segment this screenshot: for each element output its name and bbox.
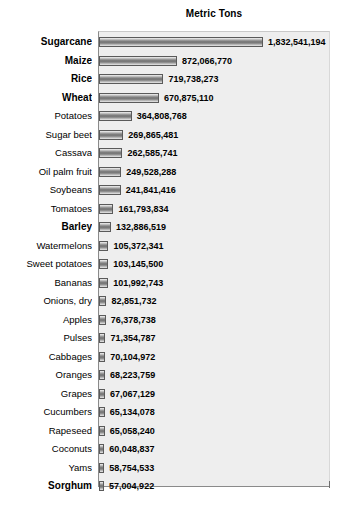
category-label: Pulses: [0, 329, 92, 348]
value-label: 249,528,288: [126, 163, 176, 182]
category-label: Barley: [0, 218, 92, 237]
category-label: Coconuts: [0, 440, 92, 459]
value-label: 65,058,240: [110, 422, 155, 441]
bar-row: Sugarcane1,832,541,194: [0, 33, 343, 52]
bar: [99, 111, 132, 121]
bar: [99, 389, 105, 399]
bar: [99, 241, 108, 251]
category-label: Sorghum: [0, 477, 92, 496]
value-label: 71,354,787: [110, 329, 155, 348]
bar-row: Apples76,378,738: [0, 311, 343, 330]
bar: [99, 204, 113, 214]
category-label: Bananas: [0, 274, 92, 293]
bar-row: Cabbages70,104,972: [0, 348, 343, 367]
category-label: Maize: [0, 52, 92, 71]
category-label: Apples: [0, 311, 92, 330]
bar-row: Barley132,886,519: [0, 218, 343, 237]
value-label: 269,865,481: [128, 126, 178, 145]
category-label: Rapeseed: [0, 422, 92, 441]
value-label: 76,378,738: [111, 311, 156, 330]
bar-row: Soybeans241,841,416: [0, 181, 343, 200]
bar: [99, 185, 121, 195]
category-label: Sugar beet: [0, 126, 92, 145]
bar: [99, 444, 104, 454]
bar: [99, 278, 108, 288]
value-label: 262,585,741: [127, 144, 177, 163]
value-label: 60,048,837: [109, 440, 154, 459]
category-label: Oranges: [0, 366, 92, 385]
bar: [99, 259, 108, 269]
bar-row: Sorghum57,004,922: [0, 477, 343, 496]
value-label: 57,004,922: [109, 477, 154, 496]
value-label: 103,145,500: [113, 255, 163, 274]
value-label: 670,875,110: [164, 89, 214, 108]
bar: [99, 315, 106, 325]
category-label: Onions, dry: [0, 292, 92, 311]
category-label: Cassava: [0, 144, 92, 163]
bar-row: Sweet potatoes103,145,500: [0, 255, 343, 274]
bar: [99, 130, 123, 140]
category-label: Sugarcane: [0, 33, 92, 52]
bar-row: Oil palm fruit249,528,288: [0, 163, 343, 182]
category-label: Soybeans: [0, 181, 92, 200]
bar-row: Watermelons105,372,341: [0, 237, 343, 256]
category-label: Tomatoes: [0, 200, 92, 219]
bar-row: Onions, dry82,851,732: [0, 292, 343, 311]
category-label: Rice: [0, 70, 92, 89]
value-label: 67,067,129: [110, 385, 155, 404]
bar-row: Potatoes364,808,768: [0, 107, 343, 126]
value-label: 82,851,732: [111, 292, 156, 311]
bar-row: Sugar beet269,865,481: [0, 126, 343, 145]
category-label: Potatoes: [0, 107, 92, 126]
value-label: 364,808,768: [137, 107, 187, 126]
bar-chart: Metric Tons Sugarcane1,832,541,194Maize8…: [0, 0, 343, 505]
bar-row: Rapeseed65,058,240: [0, 422, 343, 441]
bar: [99, 407, 105, 417]
bar: [99, 93, 159, 103]
value-label: 68,223,759: [110, 366, 155, 385]
bar: [99, 333, 105, 343]
value-label: 105,372,341: [113, 237, 163, 256]
bar-row: Cassava262,585,741: [0, 144, 343, 163]
bar: [99, 296, 106, 306]
bar: [99, 56, 177, 66]
chart-title: Metric Tons: [98, 8, 330, 19]
category-label: Watermelons: [0, 237, 92, 256]
category-label: Cucumbers: [0, 403, 92, 422]
value-label: 161,793,834: [118, 200, 168, 219]
bar: [99, 167, 121, 177]
bar-row: Cucumbers65,134,078: [0, 403, 343, 422]
bar: [99, 148, 122, 158]
value-label: 65,134,078: [110, 403, 155, 422]
bar: [99, 352, 105, 362]
value-label: 1,832,541,194: [268, 33, 326, 52]
bar: [99, 463, 104, 473]
bar-row: Pulses71,354,787: [0, 329, 343, 348]
bar-row: Grapes67,067,129: [0, 385, 343, 404]
bar-row: Oranges68,223,759: [0, 366, 343, 385]
bar: [99, 481, 104, 491]
value-label: 132,886,519: [116, 218, 166, 237]
bar-row: Bananas101,992,743: [0, 274, 343, 293]
bar-row: Rice719,738,273: [0, 70, 343, 89]
bar: [99, 426, 105, 436]
value-label: 70,104,972: [110, 348, 155, 367]
bar-row: Maize872,066,770: [0, 52, 343, 71]
value-label: 241,841,416: [126, 181, 176, 200]
bar: [99, 37, 263, 47]
bar-row: Tomatoes161,793,834: [0, 200, 343, 219]
value-label: 101,992,743: [113, 274, 163, 293]
bar-row: Yams58,754,533: [0, 459, 343, 478]
category-label: Yams: [0, 459, 92, 478]
bar-row: Wheat670,875,110: [0, 89, 343, 108]
bar: [99, 222, 111, 232]
category-label: Sweet potatoes: [0, 255, 92, 274]
bar: [99, 370, 105, 380]
bar-row: Coconuts60,048,837: [0, 440, 343, 459]
category-label: Oil palm fruit: [0, 163, 92, 182]
category-label: Grapes: [0, 385, 92, 404]
value-label: 719,738,273: [168, 70, 218, 89]
category-label: Cabbages: [0, 348, 92, 367]
value-label: 58,754,533: [109, 459, 154, 478]
category-label: Wheat: [0, 89, 92, 108]
